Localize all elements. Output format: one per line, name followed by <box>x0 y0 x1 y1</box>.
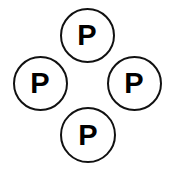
top-circle-label: P <box>77 21 96 50</box>
diagram-canvas: P P P P <box>0 0 172 171</box>
bottom-circle[interactable]: P <box>60 107 116 163</box>
left-circle[interactable]: P <box>13 56 68 111</box>
bottom-circle-label: P <box>78 121 97 150</box>
right-circle[interactable]: P <box>107 56 162 111</box>
top-circle[interactable]: P <box>60 8 115 63</box>
right-circle-label: P <box>124 69 143 98</box>
left-circle-label: P <box>30 69 49 98</box>
